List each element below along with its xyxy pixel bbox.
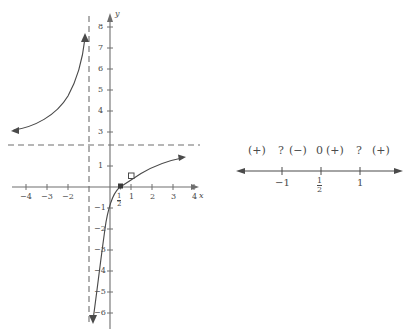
x-tick-label-one-half: 1 2: [117, 192, 121, 208]
numline-tick-label-1: 1: [357, 178, 363, 188]
x-axis-label: x: [199, 192, 204, 200]
y-tick-label-4: 4: [98, 107, 103, 115]
sign-marker-undefined-neg1: ?: [278, 145, 284, 156]
y-tick-label-3: 3: [98, 128, 103, 136]
y-tick-label-neg1: −1: [94, 204, 106, 212]
open-point-one: [129, 173, 135, 179]
sign-marker-zero-half: 0: [316, 145, 323, 156]
numline-tick-label-one-half: 1 2: [317, 177, 322, 195]
curve-left-branch: [11, 33, 89, 134]
sign-interval-2: (−): [289, 145, 307, 156]
numline-tick-label-neg1: −1: [275, 178, 290, 188]
curve-right-branch: [89, 155, 186, 325]
sign-interval-1: (+): [248, 145, 266, 156]
x-tick-label-3: 3: [171, 193, 176, 201]
x-tick-label-1: 1: [129, 193, 134, 201]
y-tick-label-1: 1: [98, 162, 103, 170]
y-axis-label: y: [115, 10, 120, 18]
y-tick-label-5: 5: [98, 86, 103, 94]
y-tick-label-7: 7: [98, 44, 103, 52]
x-tick-one-half-denominator: 2: [117, 200, 121, 208]
y-tick-label-8: 8: [98, 23, 103, 31]
x-tick-label-neg2: −2: [62, 193, 74, 201]
coordinate-axes: [12, 13, 199, 329]
y-tick-label-neg6: −6: [94, 309, 106, 317]
sign-interval-4: (+): [372, 145, 390, 156]
y-tick-label-neg4: −4: [94, 267, 106, 275]
asymptote-lines: [8, 16, 200, 322]
x-tick-label-neg3: −3: [41, 193, 53, 201]
x-tick-label-4: 4: [192, 193, 197, 201]
sign-interval-3: (+): [326, 145, 344, 156]
y-tick-label-neg2: −2: [94, 225, 106, 233]
x-tick-label-neg4: −4: [20, 193, 32, 201]
y-tick-label-neg5: −5: [94, 288, 106, 296]
x-tick-one-half-numerator: 1: [117, 193, 121, 200]
numline-one-half-denominator: 2: [317, 185, 322, 194]
numline-one-half-numerator: 1: [317, 177, 322, 185]
filled-point-half: [118, 184, 123, 189]
sign-chart-number-line: [236, 167, 403, 175]
x-tick-label-2: 2: [150, 193, 155, 201]
sign-marker-undefined-1: ?: [356, 145, 362, 156]
math-figure: [0, 0, 407, 329]
y-tick-label-neg3: −3: [94, 246, 106, 254]
y-tick-label-6: 6: [98, 65, 103, 73]
